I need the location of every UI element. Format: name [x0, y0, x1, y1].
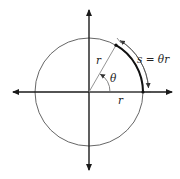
- radius-slanted: [89, 45, 116, 92]
- label-arc-formula: s = θr: [137, 53, 170, 65]
- label-radius-slanted: r: [96, 54, 102, 66]
- label-theta: θ: [110, 72, 117, 84]
- arc-endpoint-top: [114, 44, 117, 47]
- arc-length-diagram: r r θ s = θr: [0, 0, 180, 179]
- arc-endpoint-right: [141, 90, 144, 93]
- angle-theta-arc: [100, 74, 110, 92]
- label-radius-horizontal: r: [118, 94, 124, 106]
